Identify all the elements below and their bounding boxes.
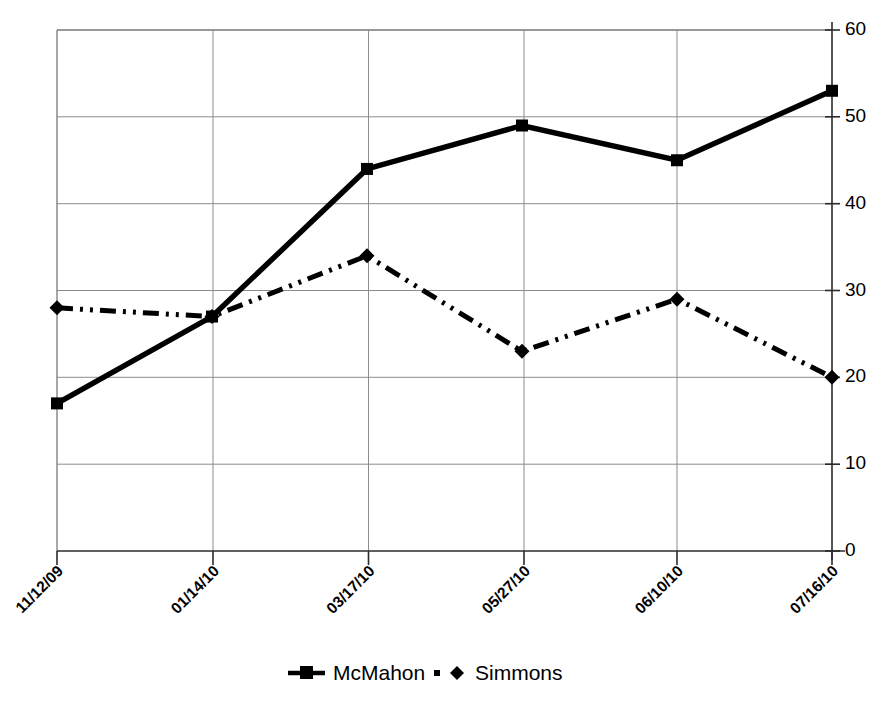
- square-marker-icon: [300, 666, 313, 679]
- square-marker: [51, 397, 63, 409]
- y-tick-label: 10: [845, 452, 866, 473]
- legend-item-mcmahon[interactable]: McMahon: [288, 661, 425, 684]
- x-tick-label: 07/16/10: [786, 562, 841, 617]
- y-tick-label: 20: [845, 365, 866, 386]
- chart-legend: McMahon Simmons: [288, 661, 563, 684]
- square-marker: [826, 85, 838, 97]
- x-tick-marks: [57, 551, 832, 565]
- y-tick-label: 40: [845, 192, 866, 213]
- line-chart: 60 50 40 30 20 10 0 11/12/09 01/14/10 03…: [0, 0, 884, 705]
- y-tick-label: 60: [845, 18, 866, 39]
- y-tick-label: 30: [845, 279, 866, 300]
- y-tick-label: 50: [845, 105, 866, 126]
- x-axis-labels: 11/12/09 01/14/10 03/17/10 05/27/10 06/1…: [12, 562, 841, 617]
- y-tick-label: 0: [845, 539, 856, 560]
- x-tick-label: 05/27/10: [478, 562, 533, 617]
- chart-canvas: 60 50 40 30 20 10 0 11/12/09 01/14/10 03…: [0, 0, 884, 705]
- square-marker: [671, 154, 683, 166]
- square-marker: [516, 120, 528, 132]
- square-marker: [361, 163, 373, 175]
- x-tick-label: 01/14/10: [167, 562, 222, 617]
- x-tick-label: 03/17/10: [323, 562, 378, 617]
- legend-label: Simmons: [475, 661, 563, 684]
- y-axis-labels: 60 50 40 30 20 10 0: [845, 18, 866, 560]
- legend-item-simmons[interactable]: Simmons: [434, 661, 563, 684]
- legend-label: McMahon: [333, 661, 425, 684]
- diamond-marker-icon: [450, 666, 464, 680]
- legend-dot-icon: [434, 670, 440, 676]
- x-tick-label: 11/12/09: [12, 562, 66, 616]
- x-tick-label: 06/10/10: [631, 562, 686, 617]
